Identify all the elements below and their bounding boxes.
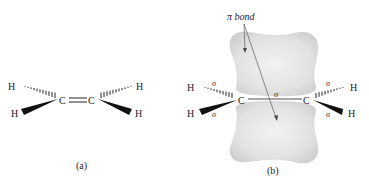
wedge-bond-left [21, 99, 58, 115]
ethylene-diagram: H H C C H H (a) π bo [0, 0, 369, 188]
pi-orbital-bottom-lobe [230, 101, 319, 163]
atom-c: C [238, 95, 245, 106]
atom-h: H [187, 108, 194, 119]
caption-b: (b) [267, 165, 279, 177]
atom-h: H [8, 81, 15, 92]
atom-h: H [11, 108, 18, 119]
sigma-label: σ [212, 79, 217, 88]
pi-orbital-top-lobe [230, 32, 319, 96]
caption-a: (a) [76, 160, 87, 172]
sigma-label: σ [326, 79, 331, 88]
sigma-label: σ [212, 110, 217, 119]
atom-h: H [187, 82, 194, 93]
hashed-bond-right [101, 86, 131, 98]
atom-h: H [135, 108, 142, 119]
atom-h: H [348, 108, 355, 119]
hashed-bond-right [316, 87, 343, 98]
panel-a: H H C C H H (a) [8, 81, 143, 172]
atom-c: C [88, 95, 95, 106]
pi-bond-label: π bond [227, 11, 256, 22]
wedge-bond-left [199, 100, 237, 115]
atom-c: C [59, 95, 66, 106]
atom-h: H [350, 82, 357, 93]
hashed-bond-left [25, 86, 55, 98]
panel-b: π bond H H σ σ C σ C [187, 11, 357, 177]
atom-c: C [303, 95, 310, 106]
hashed-bond-left [205, 87, 232, 98]
atom-h: H [136, 81, 143, 92]
sigma-label: σ [326, 110, 331, 119]
wedge-bond-right [98, 99, 132, 115]
